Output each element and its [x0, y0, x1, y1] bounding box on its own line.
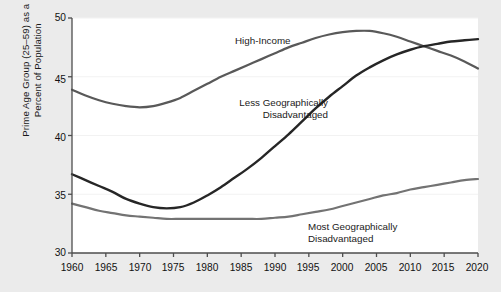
series-annotation-less-disadvantaged: Less Geographically Disadvantaged: [185, 97, 328, 120]
series-annotation-most-disadvantaged: Most Geographically Disadvantaged: [308, 221, 397, 244]
series-annotation-high-income: High-Income: [235, 35, 291, 47]
series-annotation-most-line-2: Disadvantaged: [308, 233, 373, 244]
series-annotation-most-line-1: Most Geographically: [308, 221, 397, 232]
series-annotation-less-line-2: Disadvantaged: [263, 109, 328, 120]
series-annotation-high-income-text: High-Income: [235, 35, 291, 46]
chart-figure: Prime Age Group (25–59) as a Percent of …: [0, 0, 501, 292]
series-annotation-less-line-1: Less Geographically: [239, 97, 328, 108]
